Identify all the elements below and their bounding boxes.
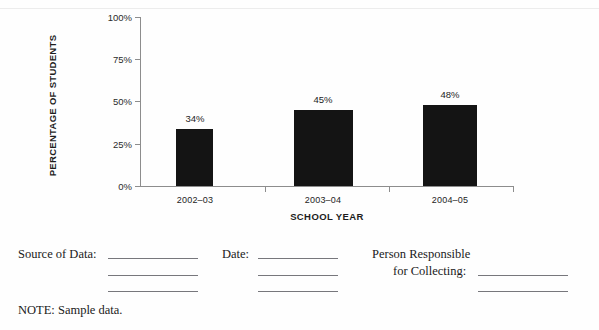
y-tick-label-50: 50% (96, 97, 132, 107)
bar-value-2003-04: 45% (292, 95, 354, 105)
note-text: NOTE: Sample data. (18, 303, 123, 318)
bar-chart: PERCENTAGE OF STUDENTS 100% 75% 50% 25% … (0, 0, 599, 225)
y-tick-100 (135, 17, 140, 18)
y-tick-label-wrap-100: 100% (92, 13, 132, 14)
y-tick-50 (135, 101, 140, 102)
source-of-data-label: Source of Data: (18, 247, 96, 261)
x-tick-2 (389, 187, 390, 192)
y-tick-0 (135, 186, 140, 187)
y-tick-label-wrap-0: 0% (92, 182, 132, 183)
source-of-data-input-line-3[interactable] (108, 291, 198, 292)
bar-value-2002-03: 34% (164, 114, 226, 124)
form-footer: Source of Data: Date: Person Responsible… (0, 225, 599, 330)
person-responsible-label-line-1: Person Responsible (372, 247, 470, 261)
bar-2003-04 (294, 110, 353, 186)
bar-value-2004-05: 48% (419, 90, 481, 100)
bar-2002-03 (176, 129, 213, 186)
y-tick-75 (135, 59, 140, 60)
x-category-label-2002-03: 2002–03 (160, 196, 230, 205)
y-tick-label-25: 25% (96, 140, 132, 150)
worksheet-page: PERCENTAGE OF STUDENTS 100% 75% 50% 25% … (0, 0, 599, 330)
x-axis-line (140, 186, 514, 187)
source-of-data-input-line-1[interactable] (108, 258, 198, 259)
y-tick-label-75: 75% (96, 55, 132, 65)
y-tick-label-0: 0% (96, 182, 132, 192)
x-category-label-2003-04: 2003–04 (288, 196, 358, 205)
date-input-line-1[interactable] (258, 258, 338, 259)
y-tick-label-wrap-50: 50% (92, 97, 132, 98)
source-of-data-input-line-2[interactable] (108, 275, 198, 276)
x-tick-1 (265, 187, 266, 192)
person-responsible-input-line-2[interactable] (478, 291, 568, 292)
y-tick-label-wrap-25: 25% (92, 140, 132, 141)
date-input-line-2[interactable] (258, 275, 338, 276)
x-category-label-2004-05: 2004–05 (415, 196, 485, 205)
person-responsible-input-line-1[interactable] (478, 275, 568, 276)
y-axis-line (140, 17, 141, 187)
date-input-line-3[interactable] (258, 291, 338, 292)
y-tick-label-wrap-75: 75% (92, 55, 132, 56)
bar-2004-05 (423, 105, 477, 186)
y-tick-25 (135, 144, 140, 145)
x-axis-title: SCHOOL YEAR (140, 211, 514, 222)
person-responsible-label-line-2: for Collecting: (393, 264, 466, 278)
y-axis-title: PERCENTAGE OF STUDENTS (47, 16, 58, 196)
x-tick-3 (513, 187, 514, 192)
y-tick-label-100: 100% (96, 13, 132, 23)
date-label: Date: (222, 247, 249, 261)
